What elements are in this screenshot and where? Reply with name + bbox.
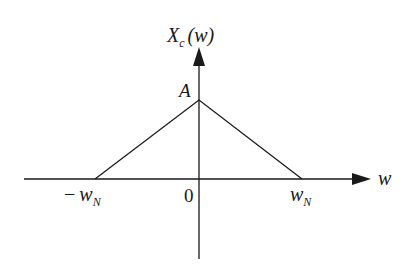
y-axis-label: Xc(w) xyxy=(166,24,215,50)
spectrum-diagram: Xc(w) A 0 −wN wN w xyxy=(0,0,413,267)
right-tick-label: wN xyxy=(290,183,312,209)
x-axis-label: w xyxy=(378,167,392,189)
y-axis-arrow-icon xyxy=(193,47,205,66)
peak-label: A xyxy=(177,80,191,101)
origin-label: 0 xyxy=(184,185,194,206)
x-axis-arrow-icon xyxy=(352,173,371,185)
left-tick-label: −wN xyxy=(64,183,102,209)
